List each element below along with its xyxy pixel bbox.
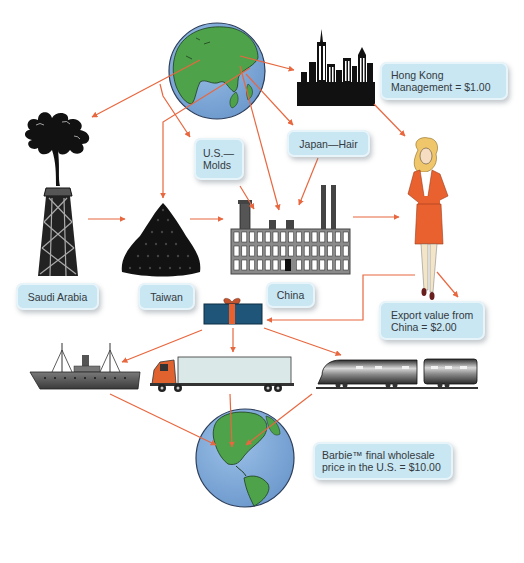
label-hong-kong-line1: Hong Kong [391, 69, 491, 81]
label-japan-hair-text: Japan—Hair [299, 138, 357, 150]
label-saudi-arabia-text: Saudi Arabia [28, 291, 88, 303]
ship-icon [30, 343, 140, 389]
label-us-molds-line1: U.S.— [203, 147, 234, 159]
label-taiwan-text: Taiwan [150, 291, 183, 303]
woman-figure-icon [408, 138, 448, 300]
city-skyline-icon [297, 29, 375, 106]
label-final-price-line1: Barbie™ final wholesale [322, 449, 441, 461]
label-hong-kong-line2: Management = $1.00 [391, 81, 491, 93]
label-export-value-line2: China = $2.00 [391, 321, 473, 333]
gift-box-icon [204, 298, 262, 324]
train-icon [316, 359, 478, 389]
oil-derrick-icon [25, 112, 89, 276]
factory-icon [231, 185, 350, 274]
label-taiwan: Taiwan [138, 283, 195, 310]
label-hong-kong-management: Hong Kong Management = $1.00 [380, 62, 508, 100]
label-japan-hair: Japan—Hair [287, 130, 370, 157]
plastic-pellets-icon [122, 203, 201, 277]
label-final-wholesale-price: Barbie™ final wholesale price in the U.S… [313, 442, 453, 480]
label-saudi-arabia: Saudi Arabia [16, 283, 99, 310]
label-us-molds: U.S.— Molds [194, 138, 244, 180]
label-china: China [266, 282, 315, 308]
label-export-value: Export value from China = $2.00 [379, 301, 485, 340]
label-export-value-line1: Export value from [391, 309, 473, 321]
label-china-text: China [277, 289, 304, 301]
globe-americas-icon [196, 409, 294, 507]
label-final-price-line2: price in the U.S. = $10.00 [322, 461, 441, 473]
truck-icon [150, 357, 294, 392]
label-us-molds-line2: Molds [203, 159, 234, 171]
